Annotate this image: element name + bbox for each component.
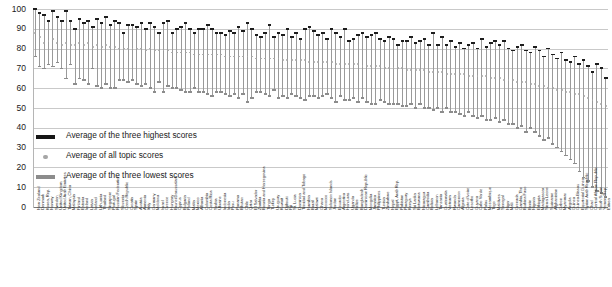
legend-avg-label: Average of all topic scores [66,150,163,160]
average-score-dot [109,46,111,48]
average-score-dot [39,36,41,38]
legend-high-label: Average of the three highest scores [66,130,197,140]
range-stem [570,62,571,159]
legend-item-avg: Average of all topic scores [36,148,251,168]
low-score-cap [352,97,355,99]
range-stem [406,41,407,106]
low-score-cap [339,95,342,97]
low-score-cap [409,103,412,105]
average-score-dot [477,75,479,77]
range-stem [605,78,606,197]
low-score-cap [356,101,359,103]
range-stem [349,41,350,100]
low-score-cap [126,81,129,83]
low-score-cap [122,79,125,81]
range-stem [194,33,195,88]
range-stem [136,27,137,84]
low-score-cap [202,91,205,93]
low-score-cap [241,93,244,95]
low-score-cap [432,109,435,111]
range-stem [389,37,390,104]
low-score-cap [34,56,37,58]
range-stem [530,53,531,128]
average-score-dot [101,46,103,48]
low-score-cap [286,97,289,99]
low-score-cap [317,97,320,99]
average-score-dot [521,81,523,83]
range-stem [512,51,513,124]
y-tick-label-60: 60 [2,84,26,93]
range-stem [145,29,146,84]
range-stem [561,53,562,152]
low-score-cap [73,83,76,85]
legend-item-high: Average of the three highest scores [36,128,251,148]
low-score-cap [69,64,72,66]
range-stem [97,19,98,86]
average-score-dot [393,67,395,69]
range-stem [181,27,182,90]
low-score-cap [578,171,581,173]
low-score-cap [144,83,147,85]
low-score-cap [171,87,174,89]
range-stem [358,35,359,102]
low-score-cap [387,103,390,105]
range-stem [92,27,93,69]
range-stem [287,29,288,98]
average-score-dot [530,83,532,85]
y-tick-label-90: 90 [2,24,26,33]
range-stem [380,39,381,100]
range-stem [141,23,142,86]
range-stem [526,51,527,132]
low-score-cap [529,127,532,129]
low-score-cap [533,131,536,133]
low-score-cap [516,127,519,129]
range-stem [159,33,160,83]
range-stem [535,47,536,132]
low-score-cap [458,113,461,115]
average-score-dot [56,42,58,44]
low-score-cap [463,115,466,117]
range-stem [481,39,482,116]
range-stem [318,35,319,98]
range-stem [437,45,438,108]
low-score-cap [179,89,182,91]
average-score-dot [87,42,89,44]
low-score-cap [551,143,554,145]
low-score-cap [237,97,240,99]
average-score-dot [583,95,585,97]
range-stem [322,33,323,96]
range-stem [331,29,332,98]
y-tick-label-70: 70 [2,64,26,73]
range-stem [265,33,266,94]
low-score-cap [206,93,209,95]
low-score-cap [224,93,227,95]
average-score-dot [556,89,558,91]
range-stem [234,33,235,94]
low-score-cap [259,91,262,93]
low-score-cap [47,64,50,66]
range-stem [455,47,456,112]
range-stem [402,41,403,106]
range-stem [88,21,89,84]
average-score-dot [547,87,549,89]
average-score-dot [494,77,496,79]
average-score-dot [432,71,434,73]
low-score-cap [246,101,249,103]
average-score-dot [596,101,598,103]
low-score-cap [379,99,382,101]
average-score-dot [605,105,607,107]
range-stem [48,21,49,65]
low-score-cap [268,95,271,97]
low-score-cap [140,85,143,87]
range-stem [415,43,416,108]
range-stem [282,35,283,96]
low-score-cap [560,151,563,153]
average-score-dot [534,83,536,85]
range-stem [420,41,421,104]
average-score-dot [70,44,72,46]
range-stem [110,25,111,88]
low-score-cap [547,137,550,139]
range-stem [340,37,341,96]
average-score-dot [415,69,417,71]
low-score-cap [498,121,501,123]
